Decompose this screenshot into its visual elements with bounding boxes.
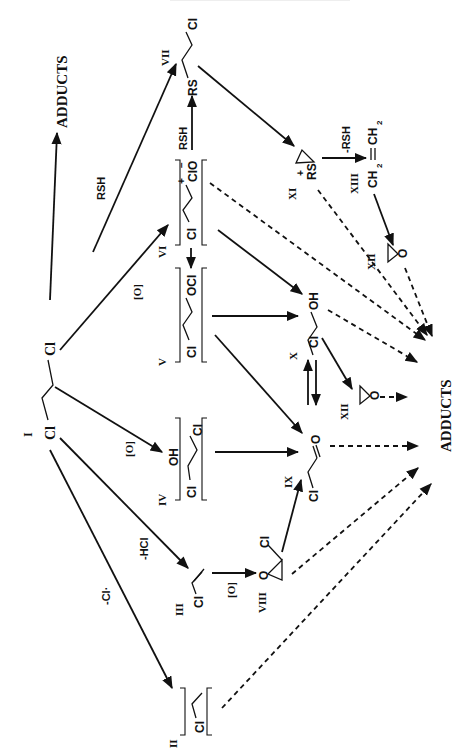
atom-iii-cl: Cl	[192, 596, 206, 608]
atom-xiii-sub-b: 2	[375, 120, 384, 125]
arrow-vii-to-xi	[198, 66, 294, 146]
reagent-rsh-vi-vii: RSH	[177, 127, 189, 150]
label-adducts-top: ADDUCTS	[54, 55, 70, 128]
bond-iii	[192, 572, 202, 594]
text-layer: ADDUCTS ADDUCTS I Cl Cl RSH [O] [O] -HCl…	[21, 18, 454, 748]
ring-xi	[296, 150, 314, 163]
atom-xi-rs: RS	[305, 163, 319, 180]
atom-viii-o: O	[257, 571, 271, 580]
bond-ix	[308, 458, 317, 488]
numeral-v: V	[156, 358, 168, 366]
arrow-viii-to-ix	[282, 480, 301, 552]
reagent-minus-cl-radical: -Cl·	[100, 587, 112, 605]
reagent-ox-iv: [O]	[123, 441, 135, 457]
atom-vii-rs: RS	[186, 79, 200, 96]
reagent-minus-rsh: -RSH	[340, 126, 352, 153]
numeral-vii: VII	[159, 49, 171, 66]
reagent-ox-vi: [O]	[131, 284, 143, 300]
arrow-vi-to-x	[218, 230, 302, 294]
numeral-iii: III	[173, 603, 185, 616]
bond-i	[42, 360, 53, 420]
atom-v-cl: Cl	[185, 346, 199, 358]
charge-xi-plus: +	[295, 170, 306, 176]
arrow-i-to-vii	[93, 64, 176, 252]
atom-xiii-ch-b: CH	[366, 128, 380, 145]
atom-ix-o: O	[309, 435, 323, 444]
atom-xii-mid-o: O	[368, 391, 382, 400]
atom-ix-cl: Cl	[307, 490, 321, 502]
dash-viii-to-adducts	[292, 468, 418, 574]
label-adducts-bottom: ADDUCTS	[438, 379, 454, 452]
numeral-viii: VIII	[256, 592, 268, 613]
atom-vi-clo: ClO	[186, 161, 200, 182]
dash-x-to-adducts	[328, 310, 417, 362]
dash-ii-to-adducts	[222, 484, 431, 708]
reagent-ox-viii: [O]	[225, 582, 237, 598]
atom-vii-cl: Cl	[186, 18, 200, 30]
dashed-arrows	[210, 183, 432, 708]
numeral-ix: IX	[282, 476, 294, 488]
bond-v	[183, 298, 192, 340]
atom-xiii-sub-a: 2	[375, 163, 384, 168]
numeral-iv: IV	[156, 494, 168, 506]
numeral-xiii: XIII	[348, 173, 360, 194]
atom-iv-cl1: Cl	[185, 486, 199, 498]
atom-i-cl1: Cl	[43, 426, 58, 440]
arrow-v-to-ix	[215, 335, 302, 433]
numeral-xii-mid: XII	[338, 403, 350, 420]
atom-iv-oh: OH	[167, 448, 181, 466]
bond-ii	[192, 693, 202, 718]
bond-iv	[188, 436, 197, 480]
arrow-xiii-to-xii	[374, 194, 393, 245]
brackets	[175, 160, 212, 735]
numeral-xii-top: XII	[365, 253, 377, 270]
atom-x-cl: Cl	[307, 336, 321, 348]
arrow-x-to-xii	[322, 338, 352, 389]
numeral-xi: XI	[286, 188, 298, 200]
charge-vi-minus: −	[176, 162, 187, 168]
arrow-i-to-ii	[50, 450, 172, 688]
numeral-ii: II	[167, 739, 179, 748]
numeral-x: X	[287, 352, 299, 360]
atom-ii-cl: Cl	[193, 721, 207, 733]
reagent-minus-hcl: -HCl	[138, 537, 150, 560]
atom-x-oh: OH	[307, 292, 321, 310]
atom-viii-cl: Cl	[258, 536, 272, 548]
atom-vi-cl: Cl	[185, 228, 199, 240]
charge-vi-plus: +	[176, 178, 187, 184]
reagent-rsh-top: RSH	[95, 177, 107, 200]
bond-vii	[182, 32, 192, 78]
numeral-vi: VI	[156, 246, 168, 258]
reaction-scheme: ADDUCTS ADDUCTS I Cl Cl RSH [O] [O] -HCl…	[0, 0, 464, 748]
atom-v-ocl: OCl	[185, 275, 199, 296]
arrow-i-to-adducts	[50, 133, 57, 300]
atom-i-cl2: Cl	[43, 342, 58, 356]
atom-xii-top-o: O	[396, 249, 410, 258]
arrow-i-to-vi	[60, 225, 168, 350]
arrow-i-to-iv	[55, 387, 162, 452]
dash-xii-top-to-adducts	[405, 268, 432, 336]
atom-xiii-ch-a: CH	[366, 171, 380, 188]
bond-vi	[183, 185, 192, 222]
atom-iv-cl2: Cl	[191, 424, 205, 436]
numeral-i: I	[21, 432, 35, 437]
